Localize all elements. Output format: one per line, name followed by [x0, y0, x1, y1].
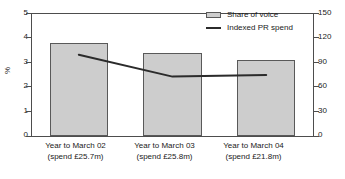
x-axis-category-0: Year to March 02 (spend £25.7m) — [31, 141, 120, 162]
x-axis-category-2-title: Year to March 04 — [209, 141, 298, 152]
y-axis-tick-right-0: 0 — [318, 131, 342, 139]
legend-label-indexed-pr-spend: Indexed PR spend — [227, 23, 293, 32]
chart-legend: Share of voice Indexed PR spend — [206, 9, 310, 35]
legend-item-indexed-pr-spend: Indexed PR spend — [206, 22, 310, 33]
y-axis-tick-left-3: 3 — [4, 58, 28, 66]
tick-right-90 — [314, 62, 319, 63]
tick-right-30 — [314, 111, 319, 112]
y-axis-tick-right-150: 150 — [318, 9, 342, 17]
legend-item-share-of-voice: Share of voice — [206, 9, 310, 20]
bar-series-share-of-voice-0 — [50, 43, 108, 136]
chart-figure: % 5 4 3 2 1 0 150 120 90 60 30 0 Year to… — [0, 0, 345, 179]
tick-right-60 — [314, 86, 319, 87]
x-axis-category-1-sublabel: (spend £25.8m) — [120, 152, 209, 163]
y-axis-tick-left-4: 4 — [4, 33, 28, 41]
y-axis-tick-left-2: 2 — [4, 82, 28, 90]
tick-right-0 — [314, 136, 319, 137]
x-axis-category-1: Year to March 03 (spend £25.8m) — [120, 141, 209, 162]
legend-line-swatch-icon — [206, 27, 221, 29]
x-axis-category-0-title: Year to March 02 — [31, 141, 120, 152]
y-axis-tick-right-90: 90 — [318, 58, 342, 66]
x-axis-category-2-sublabel: (spend £21.8m) — [209, 152, 298, 163]
bar-series-share-of-voice-1 — [143, 53, 201, 136]
y-axis-tick-left-1: 1 — [4, 107, 28, 115]
x-axis-category-2: Year to March 04 (spend £21.8m) — [209, 141, 298, 162]
legend-bar-swatch-icon — [206, 12, 221, 18]
bar-series-share-of-voice-2 — [237, 60, 295, 136]
y-axis-tick-left-0: 0 — [4, 131, 28, 139]
x-axis-category-1-title: Year to March 03 — [120, 141, 209, 152]
y-axis-tick-right-60: 60 — [318, 82, 342, 90]
x-axis-category-0-sublabel: (spend £25.7m) — [31, 152, 120, 163]
legend-label-share-of-voice: Share of voice — [227, 10, 278, 19]
tick-right-150 — [314, 13, 319, 14]
y-axis-tick-left-5: 5 — [4, 9, 28, 17]
y-axis-tick-right-30: 30 — [318, 107, 342, 115]
y-axis-tick-right-120: 120 — [318, 33, 342, 41]
tick-right-120 — [314, 37, 319, 38]
